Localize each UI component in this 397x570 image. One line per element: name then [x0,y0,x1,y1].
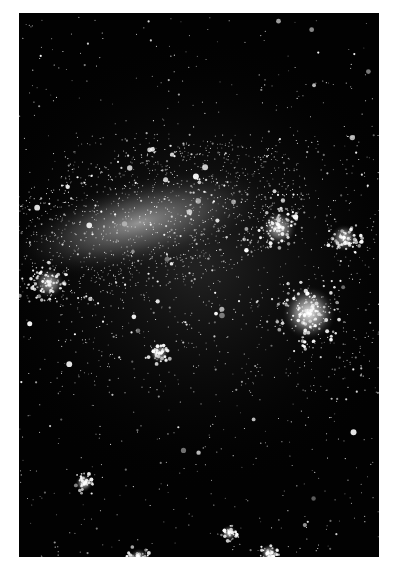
star-field [19,13,379,557]
galaxy-photo [19,13,379,557]
